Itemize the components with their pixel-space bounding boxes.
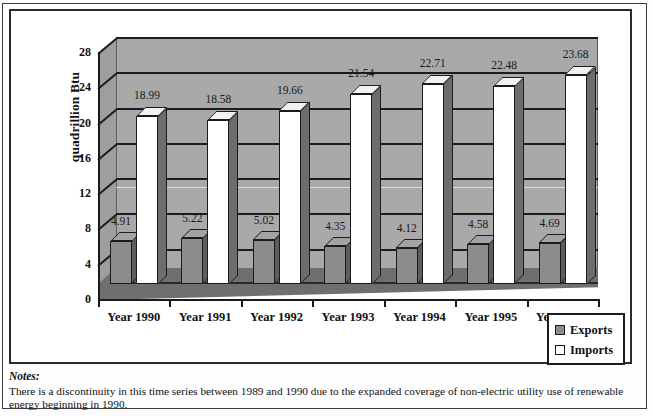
bar-group: 4.3521.54: [324, 37, 395, 284]
bar-front-face: [422, 84, 444, 284]
bar-front-face: [565, 75, 587, 284]
chart-legend: ExportsImports: [547, 313, 625, 365]
chart-panel: quadrillion Btu 0481216202428 4.9118.995…: [9, 9, 632, 364]
x-tick-mark: [455, 299, 457, 307]
x-tick-mark: [527, 299, 529, 307]
bar-group: 5.0219.66: [253, 37, 324, 284]
x-tick-mark: [169, 299, 171, 307]
y-tick-label: 16: [61, 153, 91, 163]
legend-swatch-imports: [555, 345, 565, 355]
bar-imports[interactable]: 18.58: [207, 120, 229, 284]
bar-value-label: 23.68: [563, 48, 589, 60]
bar-value-label: 21.54: [348, 67, 374, 79]
y-tick-label: 20: [61, 118, 91, 128]
bar-side-face: [301, 102, 310, 284]
bar-value-label: 18.99: [134, 89, 160, 101]
bar-front-face: [207, 120, 229, 284]
bar-value-label: 4.12: [397, 222, 417, 234]
bar-imports[interactable]: 22.71: [422, 84, 444, 284]
bar-imports[interactable]: 22.48: [493, 86, 515, 284]
y-tick-label: 12: [61, 188, 91, 198]
bar-front-face: [539, 243, 561, 284]
x-tick-mark: [98, 299, 100, 307]
bar-value-label: 4.69: [540, 217, 560, 229]
bar-value-label: 4.91: [111, 215, 131, 227]
page-root: quadrillion Btu 0481216202428 4.9118.995…: [0, 0, 653, 416]
bar-side-face: [158, 107, 167, 284]
bar-front-face: [396, 248, 418, 284]
bar-group: 4.1222.71: [396, 37, 467, 284]
y-tick-label: 28: [61, 47, 91, 57]
bar-front-face: [110, 241, 132, 284]
bar-exports[interactable]: 4.91: [110, 241, 132, 284]
bar-group: 4.5822.48: [467, 37, 538, 284]
bar-side-face: [515, 77, 524, 284]
x-tick-mark: [241, 299, 243, 307]
notes-block: Notes: There is a discontinuity in this …: [9, 370, 645, 412]
bar-front-face: [279, 111, 301, 284]
legend-label: Imports: [570, 343, 613, 358]
bar-value-label: 4.58: [468, 218, 488, 230]
bar-value-label: 18.58: [205, 93, 231, 105]
bar-front-face: [253, 240, 275, 284]
legend-swatch-exports: [555, 325, 565, 335]
bar-exports[interactable]: 4.58: [467, 244, 489, 284]
legend-item-imports[interactable]: Imports: [555, 340, 623, 360]
y-tick-label: 0: [61, 294, 91, 304]
bar-front-face: [350, 94, 372, 284]
bar-side-face: [444, 75, 453, 284]
bar-group: 4.9118.99: [110, 37, 181, 284]
x-tick-mark: [384, 299, 386, 307]
y-tick-label: 8: [61, 223, 91, 233]
bar-value-label: 22.71: [420, 57, 446, 69]
bar-side-face: [587, 66, 596, 284]
x-axis-line: [98, 299, 598, 301]
notes-text: There is a discontinuity in this time se…: [9, 385, 645, 412]
bar-exports[interactable]: 5.22: [181, 238, 203, 284]
bar-value-label: 4.35: [325, 220, 345, 232]
bar-front-face: [467, 244, 489, 284]
bar-group: 5.2218.58: [181, 37, 252, 284]
bar-exports[interactable]: 4.35: [324, 246, 346, 284]
bar-imports[interactable]: 23.68: [565, 75, 587, 284]
y-tick-label: 24: [61, 82, 91, 92]
y-axis-line: [98, 53, 100, 300]
bar-value-label: 5.02: [254, 214, 274, 226]
notes-heading: Notes:: [9, 370, 645, 384]
y-axis-ticks: 0481216202428: [59, 11, 91, 311]
legend-label: Exports: [570, 323, 612, 338]
bar-exports[interactable]: 4.12: [396, 248, 418, 284]
y-tick-label: 4: [61, 259, 91, 269]
bar-imports[interactable]: 21.54: [350, 94, 372, 284]
bar-front-face: [324, 246, 346, 284]
bar-exports[interactable]: 5.02: [253, 240, 275, 284]
bar-side-face: [372, 85, 381, 284]
legend-item-exports[interactable]: Exports: [555, 320, 623, 340]
bar-exports[interactable]: 4.69: [539, 243, 561, 284]
bar-imports[interactable]: 18.99: [136, 116, 158, 284]
x-tick-mark: [598, 299, 600, 307]
bar-imports[interactable]: 19.66: [279, 111, 301, 284]
plot-area: 4.9118.995.2218.585.0219.664.3521.544.12…: [98, 37, 598, 300]
bar-value-label: 22.48: [491, 59, 517, 71]
bar-value-label: 5.22: [182, 212, 202, 224]
bar-group: 4.6923.68: [539, 37, 610, 284]
bar-value-label: 19.66: [277, 84, 303, 96]
bar-front-face: [136, 116, 158, 284]
bar-front-face: [181, 238, 203, 284]
bar-front-face: [493, 86, 515, 284]
bar-side-face: [229, 111, 238, 284]
x-tick-mark: [312, 299, 314, 307]
